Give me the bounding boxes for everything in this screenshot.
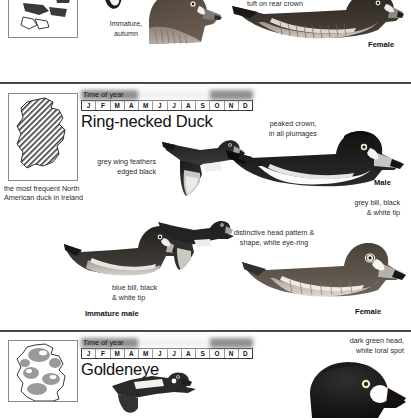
- time-of-year-goldeneye: Time of year JFMAMJJASOND: [81, 338, 253, 359]
- month-cell-f-1: F: [96, 349, 110, 358]
- species-name-ring-necked: Ring-necked Duck: [81, 112, 213, 131]
- month-cell-m-2: M: [111, 349, 125, 358]
- immature-autumn-line2: autumn: [95, 29, 157, 39]
- month-cell-j-0: J: [82, 349, 96, 358]
- month-cell-m-2: M: [111, 101, 125, 110]
- month-cell-s-8: S: [196, 101, 210, 110]
- month-cell-a-3: A: [125, 349, 139, 358]
- month-cell-j-6: J: [168, 349, 182, 358]
- month-cell-n-10: N: [225, 349, 239, 358]
- grey-bill-line1: grey bill, black: [300, 198, 400, 208]
- month-cell-a-3: A: [125, 101, 139, 110]
- ring-necked-male-label: Male: [374, 178, 391, 187]
- month-cell-o-9: O: [210, 349, 224, 358]
- month-cell-f-1: F: [96, 101, 110, 110]
- tufted-duck-wing-fragment: [98, 0, 136, 12]
- ring-necked-duck-immature-flying: [156, 214, 234, 272]
- map-caption-line1: the most frequent North: [4, 184, 108, 193]
- month-cell-a-7: A: [182, 349, 196, 358]
- month-cell-n-10: N: [225, 101, 239, 110]
- month-row-goldeneye: JFMAMJJASOND: [81, 348, 253, 359]
- map-caption-line2: American duck in Ireland: [4, 193, 108, 202]
- ring-necked-immature-male-label: Immature male: [85, 309, 139, 318]
- month-cell-j-0: J: [82, 101, 96, 110]
- blue-bill-note: blue bill, black & white tip: [112, 283, 204, 302]
- ring-necked-duck-male-swimming: [224, 128, 406, 198]
- month-cell-a-7: A: [182, 101, 196, 110]
- tufted-female-label: Female: [368, 40, 394, 49]
- month-cell-d-11: D: [239, 101, 252, 110]
- grey-wing-line2: edged black: [62, 167, 156, 177]
- time-of-year-title: Time of year: [83, 90, 124, 100]
- section-divider-1: [0, 82, 411, 84]
- blue-bill-line1: blue bill, black: [112, 283, 204, 293]
- distribution-map-goldeneye: [8, 340, 78, 402]
- immature-autumn-line1: Immature,: [95, 19, 157, 29]
- distribution-map-tufted: [8, 0, 78, 38]
- time-of-year-header-goldeneye: Time of year: [81, 338, 253, 348]
- time-of-year-title-goldeneye: Time of year: [83, 338, 124, 348]
- month-cell-d-11: D: [239, 349, 252, 358]
- month-cell-j-5: J: [153, 101, 167, 110]
- grey-wing-line1: grey wing feathers: [62, 157, 156, 167]
- grey-wing-note: grey wing feathers edged black: [62, 157, 156, 176]
- ring-necked-duck-female-swimming: [240, 238, 406, 308]
- month-cell-m-4: M: [139, 349, 153, 358]
- green-head-note: dark green head, white loral spot: [300, 336, 404, 355]
- time-of-year-header: Time of year: [81, 90, 253, 100]
- grey-bill-line2: & white tip: [300, 208, 400, 218]
- month-cell-o-9: O: [210, 101, 224, 110]
- goldeneye-male-head: [302, 360, 406, 420]
- ring-necked-map-caption: the most frequent North American duck in…: [4, 184, 108, 203]
- month-cell-j-6: J: [168, 101, 182, 110]
- month-row: JFMAMJJASOND: [81, 100, 253, 111]
- time-of-year-ring-necked: Time of year JFMAMJJASOND: [81, 90, 253, 111]
- green-head-line1: dark green head,: [300, 336, 404, 346]
- green-head-line2: white loral spot: [300, 346, 404, 356]
- grey-bill-note: grey bill, black & white tip: [300, 198, 400, 217]
- section-divider-2: [0, 330, 411, 332]
- month-cell-m-4: M: [139, 101, 153, 110]
- immature-autumn-label: Immature, autumn: [95, 19, 157, 38]
- goldeneye-flying: [108, 368, 204, 414]
- month-cell-j-5: J: [153, 349, 167, 358]
- ring-necked-female-label: Female: [355, 307, 381, 316]
- month-cell-s-8: S: [196, 349, 210, 358]
- blue-bill-line2: & white tip: [112, 293, 204, 303]
